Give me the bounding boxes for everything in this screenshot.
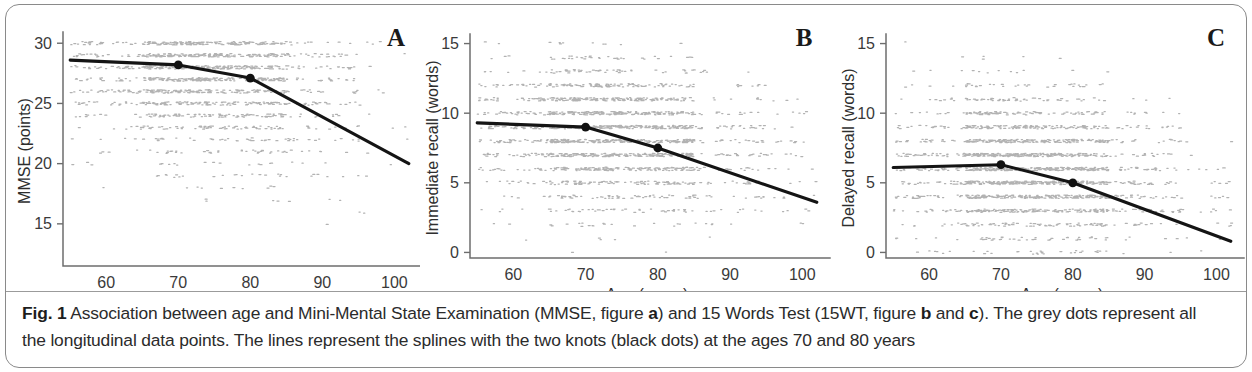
x-tick-label: 60 — [504, 266, 522, 283]
y-tick-label: 15 — [857, 35, 875, 52]
x-tick-label: 80 — [241, 274, 259, 291]
scatter-points — [70, 42, 408, 225]
panel-a-plot: 1520253060708090100Age (years)MMSE (poin… — [6, 0, 420, 291]
spline-line — [477, 123, 817, 202]
axes: 05101560708090100 — [857, 34, 1244, 283]
x-tick-label: 80 — [649, 266, 667, 283]
y-tick-label: 10 — [441, 105, 459, 122]
y-axis-title: Immediate recall (words) — [424, 60, 441, 235]
figure-label: Fig. 1 — [22, 303, 67, 323]
y-tick-label: 20 — [34, 155, 52, 172]
spline-line — [893, 165, 1231, 242]
figure-1-container: 1520253060708090100Age (years)MMSE (poin… — [0, 0, 1252, 372]
y-tick-label: 30 — [34, 35, 52, 52]
y-axis-title: MMSE (points) — [16, 98, 33, 204]
x-tick-label: 100 — [381, 274, 408, 291]
x-tick-label: 100 — [789, 266, 816, 283]
x-tick-label: 90 — [1136, 266, 1154, 283]
panel-c-plot: 05101560708090100Age (years)Delayed reca… — [834, 0, 1246, 291]
figure-caption: Fig. 1 Association between age and Mini-… — [22, 300, 1222, 354]
spline-line — [70, 60, 409, 164]
axes: 05101560708090100 — [441, 34, 830, 283]
x-tick-label: 90 — [721, 266, 739, 283]
x-tick-label: 70 — [992, 266, 1010, 283]
scatter-points — [477, 42, 817, 252]
knot-point — [1068, 178, 1077, 187]
axes: 1520253060708090100 — [34, 32, 420, 291]
panel-b-immediate-recall: 05101560708090100Age (years)Immediate re… — [420, 0, 834, 291]
y-tick-label: 0 — [866, 244, 875, 261]
x-tick-label: 60 — [920, 266, 938, 283]
knot-point — [246, 74, 255, 83]
knot-point — [997, 160, 1006, 169]
y-axis-title: Delayed recall (words) — [840, 68, 857, 227]
y-tick-label: 15 — [34, 215, 52, 232]
y-tick-label: 15 — [441, 35, 459, 52]
panel-c-delayed-recall: 05101560708090100Age (years)Delayed reca… — [834, 0, 1246, 291]
panel-letter-a: A — [387, 24, 405, 51]
x-tick-label: 60 — [97, 274, 115, 291]
y-tick-label: 10 — [857, 105, 875, 122]
knot-point — [581, 123, 590, 132]
x-tick-label: 100 — [1203, 266, 1230, 283]
knot-point — [174, 61, 183, 70]
x-tick-label: 70 — [577, 266, 595, 283]
x-tick-label: 80 — [1064, 266, 1082, 283]
x-tick-label: 70 — [169, 274, 187, 291]
y-tick-label: 0 — [450, 244, 459, 261]
panel-a-mmse: 1520253060708090100Age (years)MMSE (poin… — [6, 0, 420, 291]
y-tick-label: 25 — [34, 95, 52, 112]
knot-point — [653, 144, 662, 153]
y-tick-label: 5 — [450, 174, 459, 191]
x-tick-label: 90 — [313, 274, 331, 291]
caption-divider — [6, 291, 1246, 292]
panel-b-plot: 05101560708090100Age (years)Immediate re… — [420, 0, 834, 291]
panel-letter-c: C — [1207, 24, 1225, 51]
y-tick-label: 5 — [866, 174, 875, 191]
panel-letter-b: B — [796, 24, 813, 51]
